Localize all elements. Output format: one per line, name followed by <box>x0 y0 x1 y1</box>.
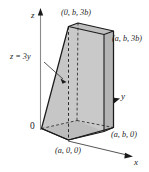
z-axis <box>38 8 43 130</box>
origin-label: 0 <box>30 122 35 132</box>
z-axis-arrowhead <box>38 8 43 16</box>
z-axis-label: z <box>31 11 35 20</box>
vertex-label-top-front: (a, b, 3b) <box>112 35 142 43</box>
y-axis-label: y <box>121 92 125 101</box>
plane-equation-label: z = 3y <box>10 53 31 61</box>
math-figure-3d-wedge: z y x 0 z = 3y (0, b, 3b) (a, b, 3b) (a,… <box>0 0 149 172</box>
x-axis-label: x <box>134 158 138 167</box>
vertex-label-base-right: (a, b, 0) <box>111 131 137 139</box>
face-right-side <box>104 31 114 132</box>
x-axis-arrowhead <box>124 153 133 159</box>
vertex-label-base-front: (a, 0, 0) <box>55 147 81 155</box>
vertex-label-top-back: (0, b, 3b) <box>61 9 91 17</box>
